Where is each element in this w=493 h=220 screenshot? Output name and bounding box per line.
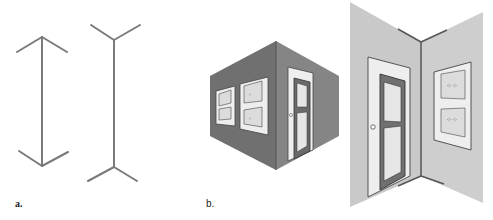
picture-frame-small: [216, 86, 235, 126]
door-inside-corner: [368, 57, 410, 197]
panel-b-label: b.: [206, 198, 214, 209]
picture-frame-large: ⁘ ⁘: [240, 77, 268, 135]
door-outside-corner: [288, 67, 313, 161]
inward-fin-line: [88, 25, 140, 181]
panel-a-label: a.: [15, 198, 23, 209]
inside-corner-room: ⁘⁘ ⁘⁘: [350, 2, 483, 207]
panel-a-illusion: [17, 25, 140, 181]
outside-corner-room: ⁘ ⁘: [210, 41, 339, 170]
outward-arrow-line: [17, 37, 68, 166]
svg-text:⁘⁘: ⁘⁘: [446, 82, 458, 90]
picture-frame-inside: ⁘⁘ ⁘⁘: [434, 62, 471, 150]
muller-lyer-figure: ⁘ ⁘ ⁘⁘: [0, 0, 493, 220]
svg-text:⁘: ⁘: [248, 91, 252, 97]
door-knob-icon: [371, 125, 375, 129]
svg-text:⁘⁘: ⁘⁘: [446, 116, 458, 124]
door-knob-icon: [290, 114, 293, 117]
svg-text:⁘: ⁘: [248, 115, 252, 121]
